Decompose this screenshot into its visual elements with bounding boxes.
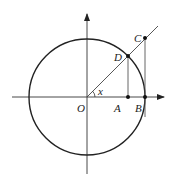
label-a: A: [113, 102, 121, 114]
label-b: B: [135, 102, 142, 114]
point-c: [143, 36, 147, 40]
diagram-canvas: O A B C D x: [0, 0, 174, 184]
angle-arc: [93, 91, 95, 97]
label-c: C: [134, 32, 142, 44]
unit-circle-diagram: O A B C D x: [0, 0, 174, 184]
point-d: [126, 54, 130, 58]
point-a: [126, 95, 130, 99]
label-angle-x: x: [97, 85, 103, 97]
label-o: O: [77, 102, 85, 114]
label-d: D: [113, 51, 122, 63]
point-b: [143, 95, 147, 99]
